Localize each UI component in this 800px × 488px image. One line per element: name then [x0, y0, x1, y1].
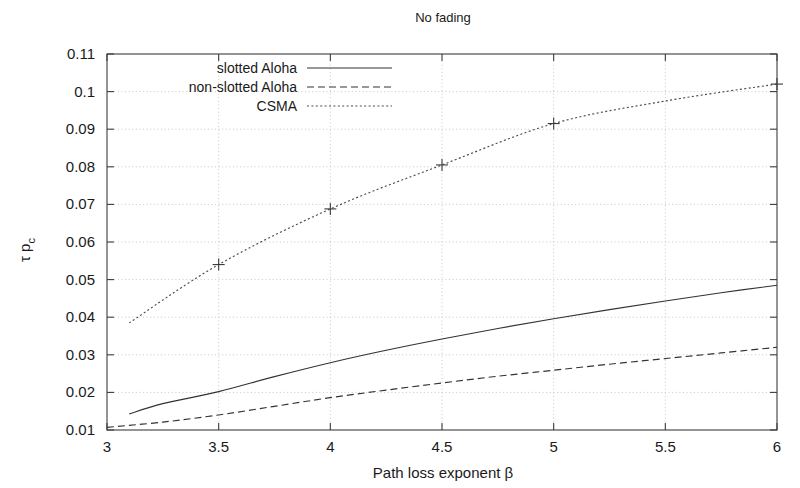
x-tick-label: 3 [103, 438, 111, 455]
x-axis-label: Path loss exponent β [373, 464, 514, 481]
y-tick-label: 0.08 [66, 158, 95, 175]
y-tick-label: 0.1 [74, 83, 95, 100]
y-tick-label: 0.01 [66, 421, 95, 438]
y-tick-label: 0.07 [66, 195, 95, 212]
x-tick-label: 4 [326, 438, 334, 455]
x-tick-label: 5 [549, 438, 557, 455]
y-tick-label: 0.11 [67, 45, 95, 62]
x-tick-label: 3.5 [208, 438, 229, 455]
y-tick-label: 0.04 [66, 308, 95, 325]
y-axis-label-text: τ p [16, 244, 33, 262]
chart-figure: No fading 0.010.020.030.040.050.060.070.… [0, 0, 800, 488]
y-tick-label: 0.05 [66, 271, 95, 288]
y-tick-label: 0.02 [66, 383, 95, 400]
y-tick-label: 0.06 [66, 233, 95, 250]
y-axis-label-subscript: c [25, 238, 37, 244]
legend-label-non-slotted-aloha: non-slotted Aloha [189, 79, 297, 95]
x-tick-label: 4.5 [432, 438, 453, 455]
x-tick-label: 6 [773, 438, 781, 455]
chart-title: No fading [415, 10, 471, 25]
legend-label-csma: CSMA [257, 98, 298, 114]
y-tick-label: 0.03 [66, 346, 95, 363]
legend-label-slotted-aloha: slotted Aloha [217, 60, 297, 76]
chart-background [0, 0, 800, 488]
x-tick-label: 5.5 [655, 438, 676, 455]
y-tick-label: 0.09 [66, 120, 95, 137]
